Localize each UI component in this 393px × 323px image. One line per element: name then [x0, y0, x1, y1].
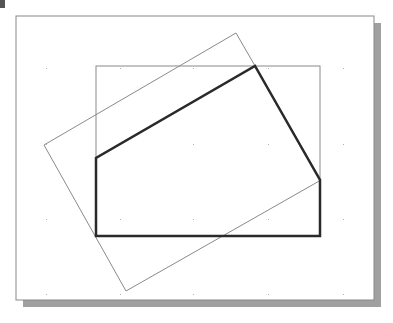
grid-dot — [268, 144, 269, 145]
grid-dot — [193, 144, 194, 145]
grid-dot — [268, 294, 269, 295]
grid-dot — [46, 68, 47, 69]
grid-dot — [46, 219, 47, 220]
grid-dot — [343, 219, 344, 220]
grid-dot — [193, 68, 194, 69]
grid-dot — [120, 294, 121, 295]
grid-dot — [343, 294, 344, 295]
grid-dot — [193, 294, 194, 295]
grid-dot — [193, 219, 194, 220]
grid-dot — [120, 219, 121, 220]
drawing-canvas — [0, 0, 393, 323]
grid-dot — [268, 68, 269, 69]
grid-dot — [46, 294, 47, 295]
grid-dot — [343, 68, 344, 69]
grid-dot — [120, 68, 121, 69]
grid-dot — [343, 144, 344, 145]
grid-dot — [268, 219, 269, 220]
